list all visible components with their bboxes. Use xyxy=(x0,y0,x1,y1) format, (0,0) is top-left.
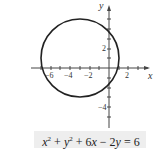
x-axis-label: x xyxy=(147,70,153,81)
y-tick-label-2: 2 xyxy=(102,44,106,53)
coordinate-plane: −6 −4 −2 2 2 −4 x y xyxy=(0,0,156,149)
x-tick-label-neg4: −4 xyxy=(64,71,73,80)
x-tick-label-2: 2 xyxy=(125,71,129,80)
y-tick-label-neg4: −4 xyxy=(98,103,107,112)
equation-caption: x2 + y2 + 6x − 2y = 6 xyxy=(36,131,146,148)
x-tick-label-neg6: −6 xyxy=(45,71,54,80)
x-tick-label-neg2: −2 xyxy=(84,71,93,80)
y-axis-arrow-icon xyxy=(107,5,111,11)
y-axis-label: y xyxy=(98,0,104,11)
